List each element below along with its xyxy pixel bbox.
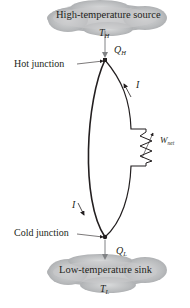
current-arrow-left [78, 203, 84, 215]
cold-junction-label: Cold junction [14, 228, 69, 238]
hot-junction-dot [103, 58, 107, 62]
heat-in-label: QH [114, 40, 126, 57]
source-title: High-temperature source [56, 10, 161, 21]
cold-junction-pointer [77, 234, 103, 237]
sink-title: Low-temperature sink [59, 265, 152, 276]
cold-junction-dot [103, 235, 107, 239]
current-label-right: I [136, 80, 139, 90]
current-label-left: I [72, 200, 75, 210]
hot-junction-label: Hot junction [14, 59, 64, 69]
thermoelectric-circuit-diagram [0, 0, 190, 308]
left-conductor-wire [88, 60, 105, 237]
heat-out-label: QL [116, 241, 127, 258]
source-temperature: TH [99, 23, 109, 40]
hot-junction-pointer [77, 61, 103, 64]
work-net-label: Wnet [160, 130, 174, 147]
resistor-symbol [140, 129, 152, 166]
work-output-arrow [142, 133, 153, 158]
sink-temperature: TL [100, 279, 109, 296]
